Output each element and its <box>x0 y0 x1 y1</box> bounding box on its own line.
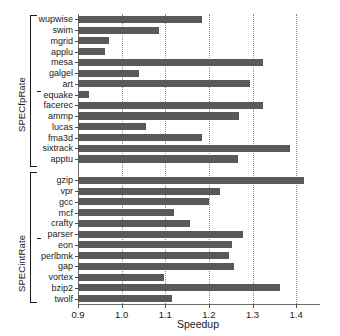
x-tick-label: 0.9 <box>71 309 84 320</box>
category-label: apptu <box>36 154 73 164</box>
category-label: wupwise <box>36 14 73 24</box>
category-label: equake <box>36 90 73 100</box>
y-tick-mark <box>75 180 78 181</box>
category-label: parser <box>36 229 73 239</box>
y-tick-mark <box>75 105 78 106</box>
bar <box>78 145 290 152</box>
category-label: eon <box>36 240 73 250</box>
bar <box>78 274 164 281</box>
y-tick-mark <box>75 234 78 235</box>
x-tick-mark <box>122 304 123 308</box>
gridline-x <box>296 14 297 304</box>
x-tick-mark <box>296 304 297 308</box>
bar <box>78 91 89 98</box>
bar <box>78 48 105 55</box>
bar <box>78 177 304 184</box>
bar <box>78 220 190 227</box>
bar <box>78 155 238 162</box>
x-tick-mark <box>165 304 166 308</box>
y-tick-mark <box>75 277 78 278</box>
category-label: art <box>36 79 73 89</box>
bar <box>78 27 159 34</box>
y-tick-mark <box>75 213 78 214</box>
speedup-bar-chart: SPECfpRate SPECintRate Speedup 0.91.01.1… <box>0 0 340 336</box>
category-label: crafty <box>36 218 73 228</box>
y-tick-mark <box>75 299 78 300</box>
y-tick-mark <box>75 245 78 246</box>
y-tick-mark <box>75 95 78 96</box>
bar <box>78 284 280 291</box>
category-label: sixtrack <box>36 143 73 153</box>
category-label: perlbmk <box>36 251 73 261</box>
category-label: swim <box>36 25 73 35</box>
bar <box>78 209 174 216</box>
y-tick-mark <box>75 84 78 85</box>
bar <box>78 134 202 141</box>
bar <box>78 37 109 44</box>
category-label: vortex <box>36 272 73 282</box>
category-label: ammp <box>36 111 73 121</box>
category-label: lucas <box>36 122 73 132</box>
x-tick-label: 1.4 <box>290 309 303 320</box>
y-tick-mark <box>75 159 78 160</box>
bar <box>78 252 229 259</box>
category-label: gzip <box>36 175 73 185</box>
bar <box>78 198 209 205</box>
x-axis-line <box>78 304 320 305</box>
x-tick-label: 1.1 <box>159 309 172 320</box>
bar <box>78 70 139 77</box>
bar <box>78 241 232 248</box>
y-tick-mark <box>75 148 78 149</box>
y-tick-mark <box>75 266 78 267</box>
bar <box>78 80 250 87</box>
x-tick-mark <box>253 304 254 308</box>
x-tick-label: 1.0 <box>115 309 128 320</box>
bar <box>78 16 202 23</box>
category-label: applu <box>36 47 73 57</box>
bar <box>78 59 263 66</box>
category-label: vpr <box>36 186 73 196</box>
y-tick-mark <box>75 138 78 139</box>
category-label: bzip2 <box>36 283 73 293</box>
category-label: gcc <box>36 197 73 207</box>
category-label: fma3d <box>36 133 73 143</box>
y-tick-mark <box>75 127 78 128</box>
category-label: galgel <box>36 68 73 78</box>
x-tick-mark <box>209 304 210 308</box>
category-label: mesa <box>36 57 73 67</box>
bar <box>78 231 243 238</box>
group-label-specfprate: SPECfpRate <box>16 77 27 132</box>
y-tick-mark <box>75 116 78 117</box>
category-label: twolf <box>36 294 73 304</box>
y-tick-mark <box>75 41 78 42</box>
category-label: mcf <box>36 208 73 218</box>
category-label: facerec <box>36 100 73 110</box>
y-tick-mark <box>75 52 78 53</box>
y-tick-mark <box>75 223 78 224</box>
x-tick-label: 1.2 <box>202 309 215 320</box>
x-tick-mark <box>78 304 79 308</box>
bar <box>78 295 172 302</box>
group-label-specintrate: SPECintRate <box>16 235 27 292</box>
x-axis-title: Speedup <box>78 318 318 330</box>
x-tick-label: 1.3 <box>246 309 259 320</box>
y-tick-mark <box>75 19 78 20</box>
bar <box>78 102 263 109</box>
gridline-x <box>253 14 254 304</box>
y-tick-mark <box>75 30 78 31</box>
y-tick-mark <box>75 202 78 203</box>
category-label: gap <box>36 261 73 271</box>
bar <box>78 188 220 195</box>
bar <box>78 263 234 270</box>
y-tick-mark <box>75 191 78 192</box>
bar <box>78 123 146 130</box>
y-tick-mark <box>75 256 78 257</box>
y-tick-mark <box>75 73 78 74</box>
y-tick-mark <box>75 288 78 289</box>
bar <box>78 112 239 119</box>
category-label: mgrid <box>36 36 73 46</box>
y-tick-mark <box>75 62 78 63</box>
